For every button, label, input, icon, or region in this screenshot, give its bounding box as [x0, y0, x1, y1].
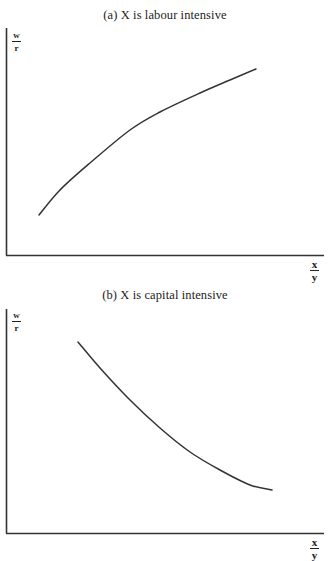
y-axis-label-b: w r: [12, 310, 21, 333]
curve-labour-intensive: [39, 69, 256, 215]
fraction-bar: [12, 321, 21, 322]
chart-panel-b: (b) X is capital intensive w r x y: [0, 280, 330, 559]
x-axis-label-a: x y: [310, 259, 319, 282]
y-label-numerator: w: [12, 310, 21, 320]
y-label-denominator: r: [14, 43, 20, 53]
y-axis-label-a: w r: [12, 30, 21, 53]
y-label-numerator: w: [12, 30, 21, 40]
x-label-numerator: x: [311, 537, 319, 547]
y-label-denominator: r: [14, 323, 20, 333]
x-label-denominator: y: [311, 550, 319, 560]
fraction-bar: [12, 41, 21, 42]
x-label-numerator: x: [311, 259, 319, 269]
plot-area-a: [0, 0, 330, 280]
plot-area-b: [0, 280, 330, 559]
chart-panel-a: (a) X is labour intensive w r x y: [0, 0, 330, 280]
curve-capital-intensive: [78, 342, 272, 490]
x-axis-label-b: x y: [310, 537, 319, 560]
